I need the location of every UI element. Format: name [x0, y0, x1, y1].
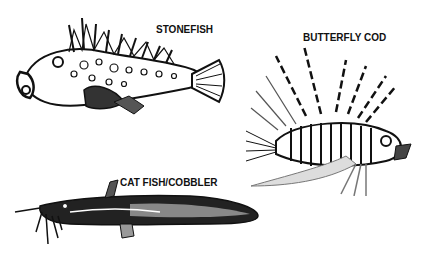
catfish-illustration — [10, 178, 260, 248]
stonefish-label: STONEFISH — [156, 24, 213, 35]
butterfly-cod-label: BUTTERFLY COD — [303, 32, 386, 43]
butterfly-cod-illustration — [246, 46, 416, 196]
